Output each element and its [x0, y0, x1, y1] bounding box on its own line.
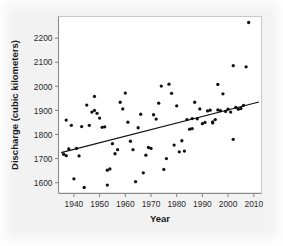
- data-point: [126, 121, 129, 124]
- x-tick-label-1960: 1960: [116, 199, 135, 209]
- x-tick-label-1950: 1950: [90, 199, 109, 209]
- x-axis-title: Year: [150, 213, 170, 224]
- data-point: [198, 107, 201, 110]
- data-point: [157, 102, 160, 105]
- data-point: [70, 124, 73, 127]
- x-tick-label-1940: 1940: [65, 199, 84, 209]
- data-point: [116, 148, 119, 151]
- y-tick-label-2000: 2000: [34, 82, 53, 92]
- plot-area-background: [59, 17, 262, 194]
- data-point: [214, 118, 217, 121]
- y-tick-label-2100: 2100: [34, 57, 53, 67]
- data-point: [232, 64, 235, 67]
- data-point: [165, 157, 168, 160]
- data-point: [160, 84, 163, 87]
- data-point: [190, 127, 193, 130]
- data-point: [232, 138, 235, 141]
- data-point: [65, 154, 68, 157]
- x-tick-label-2010: 2010: [244, 199, 263, 209]
- y-tick-label-1800: 1800: [34, 130, 53, 140]
- data-point: [152, 113, 155, 116]
- y-tick-label-1900: 1900: [34, 106, 53, 116]
- data-point: [167, 83, 170, 86]
- chart-figure: 1600170018001900200021002200 Discharge (…: [0, 0, 283, 246]
- data-point: [203, 121, 206, 124]
- data-point: [80, 125, 83, 128]
- data-point: [134, 180, 137, 183]
- data-point: [103, 125, 106, 128]
- data-point: [175, 104, 178, 107]
- data-point: [244, 65, 247, 68]
- data-point: [247, 21, 250, 24]
- y-tick-label-1700: 1700: [34, 154, 53, 164]
- data-point: [208, 109, 211, 112]
- data-point: [88, 124, 91, 127]
- data-point: [106, 183, 109, 186]
- data-point: [124, 91, 127, 94]
- data-point: [183, 149, 186, 152]
- scatter-plot: 1600170018001900200021002200 Discharge (…: [0, 0, 283, 246]
- data-point: [137, 126, 140, 129]
- data-point: [113, 152, 116, 155]
- x-tick-label-1990: 1990: [193, 199, 212, 209]
- data-point: [162, 168, 165, 171]
- x-tick-label-1980: 1980: [167, 199, 186, 209]
- y-tick-label-1600: 1600: [34, 178, 53, 188]
- data-point: [211, 121, 214, 124]
- data-point: [108, 167, 111, 170]
- data-point: [149, 147, 152, 150]
- data-point: [119, 101, 122, 104]
- data-point: [111, 142, 114, 145]
- data-point: [95, 112, 98, 115]
- data-point: [77, 154, 80, 157]
- data-point: [178, 150, 181, 153]
- data-point: [193, 101, 196, 104]
- y-tick-label-2200: 2200: [34, 33, 53, 43]
- data-point: [121, 107, 124, 110]
- data-point: [139, 113, 142, 116]
- data-point: [142, 171, 145, 174]
- data-point: [93, 109, 96, 112]
- data-point: [170, 92, 173, 95]
- data-point: [85, 103, 88, 106]
- x-tick-label-2000: 2000: [219, 199, 238, 209]
- data-point: [65, 118, 68, 121]
- data-point: [72, 177, 75, 180]
- x-tick-label-1970: 1970: [142, 199, 161, 209]
- data-point: [144, 154, 147, 157]
- data-point: [216, 83, 219, 86]
- data-point: [93, 95, 96, 98]
- data-point: [98, 116, 101, 119]
- data-point: [221, 92, 224, 95]
- data-point: [172, 143, 175, 146]
- data-point: [155, 117, 158, 120]
- y-axis-title: Discharge (cubic kilometers): [9, 40, 20, 170]
- data-point: [229, 110, 232, 113]
- data-point: [180, 139, 183, 142]
- data-point: [83, 186, 86, 189]
- data-point: [131, 148, 134, 151]
- data-point: [129, 140, 132, 143]
